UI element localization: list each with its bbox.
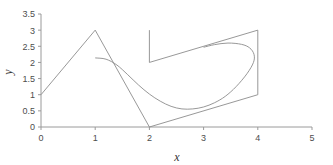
x-tick-label: 0 (38, 133, 43, 143)
y-tick-label: 1.5 (22, 74, 35, 84)
y-tick-label: 3.5 (22, 9, 35, 19)
y-tick-label: 2.5 (22, 42, 35, 52)
y-tick-label: 3 (30, 26, 35, 36)
x-tick-label: 5 (309, 133, 314, 143)
y-tick-label: 1 (30, 90, 35, 100)
x-axis-title: x (173, 150, 180, 164)
line-chart: 00.511.522.533.5 012345 x y (0, 0, 333, 165)
y-tick-label: 2 (30, 58, 35, 68)
y-tick-label: 0 (30, 122, 35, 132)
x-tick-label: 3 (201, 133, 206, 143)
x-tick-label: 4 (255, 133, 260, 143)
plot-background (0, 0, 333, 165)
x-tick-label: 2 (147, 133, 152, 143)
x-tick-label: 1 (93, 133, 98, 143)
y-axis-title: y (1, 69, 15, 76)
y-tick-label: 0.5 (22, 106, 35, 116)
chart-page: 00.511.522.533.5 012345 x y (0, 0, 333, 165)
